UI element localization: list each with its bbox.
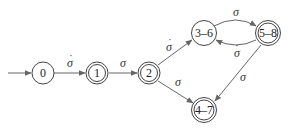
svg-text:σ: σ (233, 5, 240, 19)
svg-text:0: 0 (40, 66, 46, 80)
edge-1-2: σ (109, 56, 137, 73)
edge-5-8-3-6: σ · (216, 40, 256, 60)
svg-text:5–8: 5–8 (259, 26, 277, 40)
state-5-8: 5–8 (256, 21, 281, 46)
state-4-7: 4–7 (192, 98, 217, 123)
state-1: 1 (86, 62, 108, 84)
edge-2-3-6: σ · (158, 34, 192, 65)
state-2: 2 (138, 62, 160, 84)
svg-text:·: · (69, 50, 72, 61)
svg-text:1: 1 (94, 66, 100, 80)
svg-text:·: · (168, 34, 171, 45)
svg-text:·: · (235, 40, 238, 51)
svg-text:4–7: 4–7 (195, 103, 213, 117)
svg-text:σ: σ (240, 70, 247, 84)
state-0: 0 (32, 62, 54, 84)
state-3-6: 3–6 (192, 21, 217, 46)
svg-text:σ: σ (175, 75, 182, 89)
svg-text:3–6: 3–6 (195, 26, 213, 40)
edge-0-1: σ · (54, 50, 85, 73)
svg-text:2: 2 (146, 66, 152, 80)
automaton-diagram: σ · σ σ · σ σ σ · σ 0 1 2 (0, 0, 291, 134)
edge-3-6-5-8: σ (214, 5, 256, 26)
svg-text:σ: σ (120, 56, 127, 70)
edge-2-4-7: σ (158, 75, 193, 103)
